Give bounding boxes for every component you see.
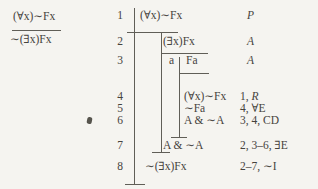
subproof-scope-line-foot	[152, 152, 170, 153]
line-number: 4	[106, 90, 123, 102]
justification: 4, ∀E	[240, 102, 265, 114]
line-number: 1	[106, 9, 123, 21]
justification: 2–7, ∼I	[240, 160, 276, 172]
justification-rule: ∼I	[263, 160, 276, 172]
proof-row-5: 5 ∼Fa 4, ∀E	[0, 102, 318, 114]
formula: (∀x)∼Fx	[140, 9, 182, 21]
proof-row-3: 3 a Fa A	[0, 54, 318, 66]
main-scope-line-foot	[125, 184, 145, 185]
justification-rule: ∀E	[252, 102, 266, 114]
formula: A & ∼A	[184, 114, 224, 126]
line-number: 8	[106, 160, 123, 172]
argument-inference-line	[12, 30, 61, 31]
proof-row-6: 6 A & ∼A 3, 4, CD	[0, 114, 318, 126]
justification-refs: 4,	[240, 102, 252, 114]
instantiation-scope-line-foot	[171, 137, 187, 138]
line-number: 2	[106, 35, 123, 47]
justification-refs: 2, 3–6,	[240, 139, 275, 151]
justification: P	[247, 9, 254, 21]
formula: A & ∼A	[163, 139, 203, 151]
justification: 1, R	[240, 90, 259, 102]
justification: A	[247, 35, 254, 47]
line-number: 3	[106, 54, 123, 66]
justification-rule: A	[247, 54, 254, 66]
premise-separator-line	[127, 32, 178, 33]
justification-refs: 2–7,	[240, 160, 263, 172]
formula: (∀x)∼Fx	[184, 90, 226, 102]
proof-row-1: 1 (∀x)∼Fx P	[0, 9, 318, 21]
proof-row-7: 7 A & ∼A 2, 3–6, ∃E	[0, 139, 318, 151]
formula: (∃x)Fx	[163, 35, 195, 47]
formula: ∼Fa	[184, 102, 205, 114]
justification: A	[247, 54, 254, 66]
justification: 3, 4, CD	[240, 114, 279, 126]
instantiation-constant: a	[169, 54, 174, 66]
proof-row-4: 4 (∀x)∼Fx 1, R	[0, 90, 318, 102]
line-number: 6	[106, 114, 123, 126]
justification-refs: 1,	[240, 90, 252, 102]
proof-row-2: 2 (∃x)Fx A	[0, 35, 318, 47]
justification-rule: P	[247, 9, 254, 21]
justification-refs: 3, 4,	[240, 114, 263, 126]
justification-rule: ∃E	[275, 139, 288, 151]
line-number: 7	[106, 139, 123, 151]
formula: ∼(∃x)Fx	[145, 160, 186, 172]
justification-rule: CD	[263, 114, 279, 126]
instantiation-assumption-line	[179, 73, 209, 74]
proof-row-8: 8 ∼(∃x)Fx 2–7, ∼I	[0, 160, 318, 172]
justification-rule: R	[252, 90, 259, 102]
formula: Fa	[186, 54, 198, 66]
line-number: 5	[106, 102, 123, 114]
textbook-proof-figure: (∀x)∼Fx ∼(∃x)Fx 1 (∀x)∼Fx P 2 (∃x)Fx A 3…	[0, 0, 318, 189]
justification: 2, 3–6, ∃E	[240, 139, 288, 151]
justification-rule: A	[247, 35, 254, 47]
